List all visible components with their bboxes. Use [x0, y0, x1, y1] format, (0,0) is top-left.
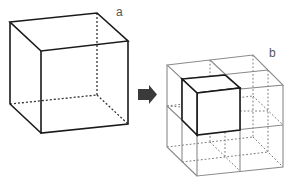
highlighted-subcube: [182, 75, 240, 135]
panel-label-a: a: [116, 6, 123, 18]
cube-a-hidden-edges: [10, 13, 128, 124]
cube-a: [10, 13, 128, 133]
panel-label-b: b: [269, 47, 276, 59]
arrow-right-icon: [138, 85, 157, 104]
cube-subdivision-diagram: a b: [0, 0, 295, 186]
cube-b: [167, 55, 283, 176]
diagram-canvas: [0, 0, 295, 186]
cube-a-visible-edges: [10, 13, 128, 133]
